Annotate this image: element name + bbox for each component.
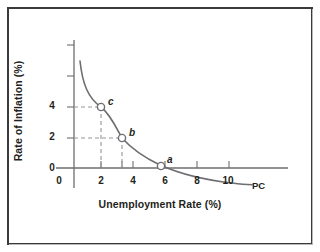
- data-point-a-marker: [157, 162, 164, 169]
- x-tick-label-6: 6: [158, 175, 172, 186]
- x-axis-title: Unemployment Rate (%): [60, 198, 260, 210]
- y-tick-label-0: 0: [44, 162, 60, 173]
- phillips-curve-line: [80, 61, 252, 185]
- x-tick-label-8: 8: [190, 175, 204, 186]
- plot-area: [0, 0, 320, 252]
- data-point-label-c: c: [108, 96, 114, 107]
- x-tick-label-4: 4: [126, 175, 140, 186]
- x-tick-label-10: 10: [219, 175, 237, 186]
- x-tick-label-2: 2: [94, 175, 108, 186]
- data-point-label-b: b: [129, 127, 135, 138]
- y-axis-title: Rate of Inflation (%): [12, 46, 24, 176]
- guide-lines-point-b: [74, 138, 122, 168]
- phillips-curve-figure: 0 2 4 0 2 4 6 8 10 c b a PC Rate of Infl…: [0, 0, 320, 252]
- data-point-b-marker: [118, 134, 125, 141]
- y-axis-ticks: [67, 45, 74, 138]
- x-tick-label-0: 0: [52, 175, 66, 186]
- curve-label-pc: PC: [252, 180, 265, 191]
- y-tick-label-4: 4: [44, 100, 60, 111]
- data-point-c-marker: [97, 103, 104, 110]
- data-point-label-a: a: [167, 154, 173, 165]
- y-tick-label-2: 2: [44, 131, 60, 142]
